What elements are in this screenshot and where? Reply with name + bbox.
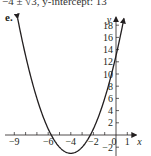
y-tick-label: 4 xyxy=(108,105,113,116)
y-tick-label: 14 xyxy=(103,44,113,55)
x-tick-label: −4 xyxy=(65,136,76,147)
parabola-chart: −9−6−4−201−224681012141618xy xyxy=(0,0,151,156)
x-tick-label: −6 xyxy=(43,136,54,147)
y-tick-label: −2 xyxy=(102,142,113,153)
y-axis-label: y xyxy=(106,14,112,25)
y-tick-label: 16 xyxy=(103,32,113,43)
x-axis-label: x xyxy=(136,136,142,147)
tick-labels: −9−6−4−201−224681012141618xy xyxy=(9,14,142,153)
x-tick-label: 1 xyxy=(125,136,130,147)
y-tick-label: 6 xyxy=(108,93,113,104)
y-tick-label: 2 xyxy=(108,117,113,128)
y-tick-label: 12 xyxy=(103,56,113,67)
x-tick-label: −2 xyxy=(88,136,99,147)
x-tick-label: −9 xyxy=(9,136,20,147)
